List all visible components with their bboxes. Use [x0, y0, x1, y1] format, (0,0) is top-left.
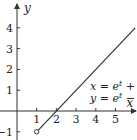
- x-tick-label: 2: [53, 113, 60, 126]
- equation-x: x = et + 1,: [90, 79, 137, 93]
- equation-y: y = et − 1: [89, 91, 137, 105]
- equation-annotation: x = et + 1,y = et − 1: [89, 79, 137, 105]
- open-circle-endpoint: [35, 130, 39, 134]
- y-tick-label: 1: [6, 84, 13, 97]
- y-tick-label: 2: [6, 63, 13, 76]
- x-tick-label: 3: [73, 113, 80, 126]
- y-axis-label: y: [23, 1, 31, 15]
- y-tick-label: 3: [6, 43, 13, 56]
- parametric-plot: 12345−11234 xy x = et + 1,y = et − 1: [0, 0, 137, 140]
- x-tick-label: 4: [92, 113, 99, 126]
- x-tick-label: 1: [33, 113, 40, 126]
- y-tick-label: 4: [6, 22, 13, 35]
- x-tick-label: 5: [112, 113, 119, 126]
- y-tick-label: −1: [0, 126, 13, 139]
